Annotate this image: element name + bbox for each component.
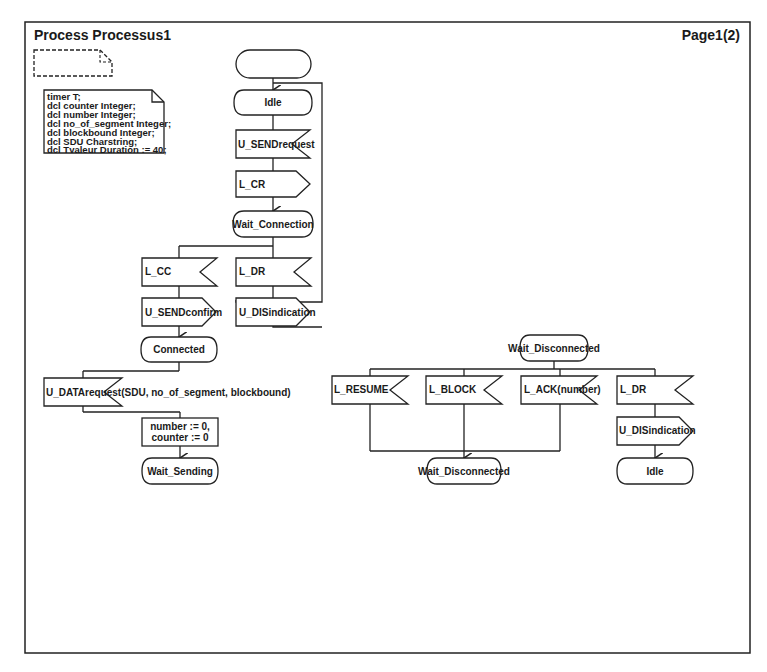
sdl-process-diagram: Process Processus1 Page1(2) timer T; dcl…: [0, 0, 767, 672]
input-l-block-label: L_BLOCK: [429, 384, 477, 395]
state-idle-2-label: Idle: [646, 466, 664, 477]
start-symbol[interactable]: [236, 50, 311, 78]
output-u-sendconfirm-label: U_SENDconfirm: [145, 307, 222, 318]
declaration-block[interactable]: timer T; dcl counter Integer; dcl number…: [44, 90, 171, 155]
process-title: Process Processus1: [34, 27, 171, 43]
output-u-disindication-2-label: U_DISindication: [619, 425, 696, 436]
state-wait-disconnected-label: Wait_Disconnected: [508, 343, 600, 354]
input-u-datarequest-label: U_DATArequest(SDU, no_of_segment, blockb…: [46, 387, 291, 398]
state-wait-disconnected-2-label: Wait_Disconnected: [418, 466, 510, 477]
input-l-dr-2-label: L_DR: [620, 384, 647, 395]
input-l-ack-label: L_ACK(number): [524, 384, 601, 395]
state-wait-sending-label: Wait_Sending: [147, 466, 213, 477]
task-line-2: counter := 0: [152, 432, 209, 443]
input-l-dr-label: L_DR: [239, 266, 266, 277]
input-l-resume-label: L_RESUME: [334, 384, 389, 395]
input-u-sendrequest-label: U_SENDrequest: [238, 139, 315, 150]
empty-text-symbol[interactable]: [34, 50, 112, 76]
page-number: Page1(2): [682, 27, 740, 43]
state-idle-label: Idle: [264, 97, 282, 108]
output-u-disindication-label: U_DISindication: [239, 307, 316, 318]
state-connected-label: Connected: [153, 344, 205, 355]
output-l-cr-label: L_CR: [239, 179, 266, 190]
decl-line: dcl Tvaleur Duration := 40;: [47, 144, 167, 155]
state-wait-connection-label: Wait_Connection: [232, 219, 313, 230]
input-l-cc-label: L_CC: [145, 266, 171, 277]
task-line-1: number := 0,: [150, 421, 210, 432]
